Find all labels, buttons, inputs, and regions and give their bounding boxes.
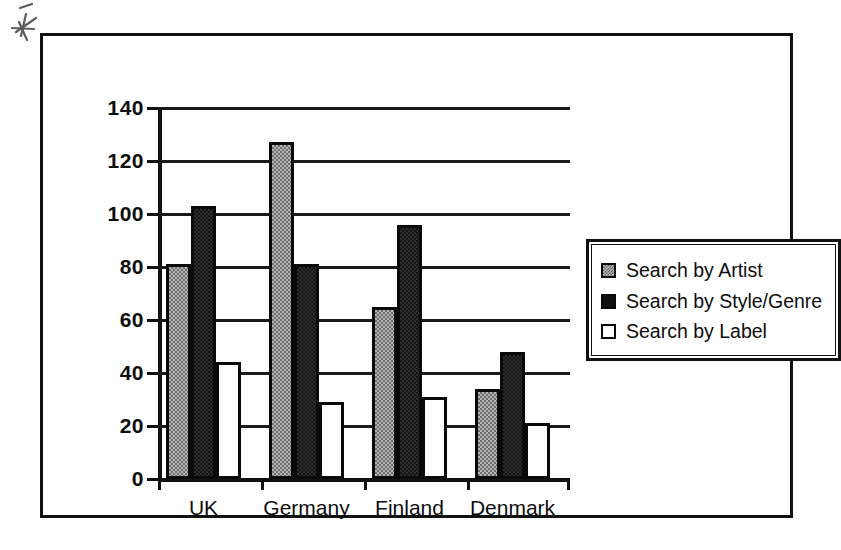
y-tick-label-40: 40 — [120, 361, 144, 385]
y-tick-mark-20 — [147, 425, 159, 428]
bar-group-denmark — [475, 108, 550, 479]
x-axis-label-denmark: Denmark — [470, 496, 555, 520]
y-tick-label-0: 0 — [132, 467, 144, 491]
chart-legend: Search by ArtistSearch by Style/GenreSea… — [586, 239, 841, 361]
bar-finland-style — [397, 225, 422, 479]
x-tick-mark-end — [567, 479, 570, 490]
bar-germany-style — [294, 264, 319, 479]
plot-area: 020406080100120140 UKGermanyFinlandDenma… — [158, 108, 570, 479]
legend-item-artist[interactable]: Search by Artist — [601, 261, 822, 281]
bar-denmark-artist — [475, 389, 500, 479]
bar-uk-label — [216, 362, 241, 479]
y-tick-label-60: 60 — [120, 308, 144, 332]
legend-label: Search by Style/Genre — [626, 292, 822, 312]
x-tick-mark-3 — [467, 479, 470, 490]
bar-group-finland — [372, 108, 447, 479]
y-axis-line — [158, 108, 162, 479]
legend-item-style[interactable]: Search by Style/Genre — [601, 292, 822, 312]
y-tick-label-140: 140 — [107, 96, 144, 120]
y-tick-mark-80 — [147, 266, 159, 269]
x-axis-label-germany: Germany — [263, 496, 349, 520]
bar-finland-label — [422, 397, 447, 479]
y-tick-label-80: 80 — [120, 255, 144, 279]
legend-swatch-icon-style — [601, 294, 616, 309]
bar-uk-style — [191, 206, 216, 479]
bar-denmark-label — [525, 423, 550, 479]
x-tick-mark-2 — [364, 479, 367, 490]
y-tick-mark-100 — [147, 213, 159, 216]
y-tick-label-120: 120 — [107, 149, 144, 173]
y-tick-mark-140 — [147, 107, 159, 110]
y-tick-label-20: 20 — [120, 414, 144, 438]
x-axis-label-finland: Finland — [375, 496, 444, 520]
bar-germany-label — [319, 402, 344, 479]
y-tick-label-100: 100 — [107, 202, 144, 226]
y-tick-mark-120 — [147, 160, 159, 163]
legend-item-label[interactable]: Search by Label — [601, 322, 822, 342]
legend-label: Search by Label — [626, 322, 767, 342]
legend-swatch-icon-artist — [601, 263, 616, 278]
y-tick-mark-60 — [147, 319, 159, 322]
bar-uk-artist — [166, 264, 191, 479]
y-tick-mark-40 — [147, 372, 159, 375]
legend-swatch-icon-label — [601, 324, 616, 339]
chart-figure-frame: 020406080100120140 UKGermanyFinlandDenma… — [40, 33, 793, 518]
bar-germany-artist — [269, 142, 294, 479]
bar-group-uk — [166, 108, 241, 479]
x-tick-mark-0 — [158, 479, 161, 490]
x-axis-label-uk: UK — [189, 496, 218, 520]
bar-finland-artist — [372, 307, 397, 479]
x-tick-mark-1 — [261, 479, 264, 490]
bar-group-germany — [269, 108, 344, 479]
bar-denmark-style — [500, 352, 525, 479]
legend-label: Search by Artist — [626, 261, 763, 281]
